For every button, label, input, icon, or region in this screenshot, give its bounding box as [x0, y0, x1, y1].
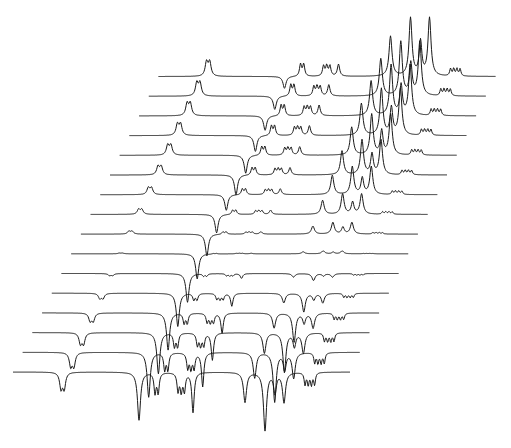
spectrum-trace-12 [120, 114, 457, 174]
spectrum-trace-8 [81, 222, 418, 256]
stacked-spectra-plot [0, 0, 511, 448]
